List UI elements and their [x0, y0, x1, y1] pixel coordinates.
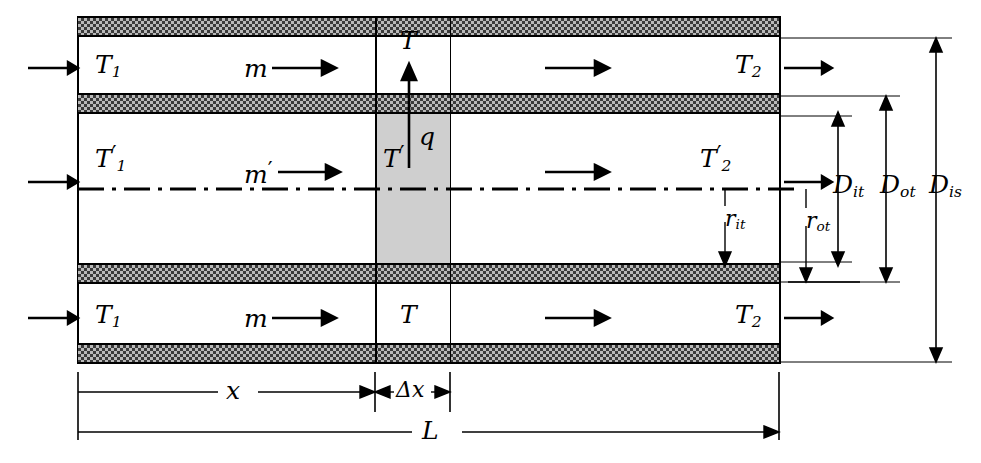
wall-band-outer-bottom — [78, 343, 779, 364]
wall-band-tube-top — [78, 93, 779, 114]
heat-flux-label: q — [419, 124, 435, 149]
control-volume-left-edge — [375, 16, 377, 364]
shell-left-wall — [77, 16, 79, 364]
outlet-arrows — [784, 62, 832, 324]
bottom-outlet-temperature-label: T2 — [735, 302, 762, 330]
control-volume-middle-temperature-label: T′ — [383, 142, 405, 171]
dimension-label-x: x — [226, 378, 240, 403]
top-inlet-temperature-label: T1 — [95, 52, 122, 80]
overlay-lines — [0, 0, 981, 463]
dimension-label-Dis: Dis — [929, 172, 962, 200]
wall-band-tube-bottom — [78, 263, 779, 284]
bottom-inlet-temperature-label: T1 — [95, 302, 122, 330]
top-mass-flow-label: m — [244, 56, 268, 81]
dimension-label-rit: rit — [725, 208, 745, 232]
control-volume-shading — [377, 114, 450, 263]
middle-outlet-temperature-label: T′2 — [700, 142, 731, 175]
shell-right-wall — [779, 16, 781, 364]
dimension-extension-lines — [779, 38, 952, 362]
dimension-label-rot: rot — [806, 210, 830, 234]
top-outlet-temperature-label: T2 — [735, 52, 762, 80]
dimension-label-L: L — [422, 418, 439, 443]
dimension-arrow-rot — [788, 189, 860, 282]
figure-canvas: T1 m T T2 T′1 m′ T′ T′2 q T1 m T T2 rit … — [0, 0, 981, 463]
control-volume-bottom-temperature-label: T — [400, 302, 417, 327]
middle-inlet-temperature-label: T′1 — [95, 142, 126, 175]
bottom-mass-flow-label: m — [244, 306, 268, 331]
control-volume-top-temperature-label: T — [400, 28, 417, 53]
dimension-label-delta-x: Δx — [396, 379, 424, 401]
dimension-label-Dit: Dit — [833, 172, 864, 200]
control-volume-right-edge — [450, 16, 451, 364]
middle-mass-flow-label: m′ — [244, 158, 273, 187]
inlet-arrows — [28, 62, 78, 324]
dimension-label-Dot: Dot — [880, 172, 916, 200]
wall-band-outer-top — [78, 16, 779, 37]
